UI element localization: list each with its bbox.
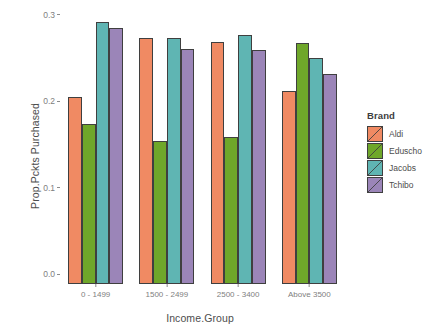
bar <box>238 35 252 284</box>
y-axis-tick-label: 0.3 <box>43 10 57 20</box>
y-axis-tick-label: 0.2 <box>43 96 57 106</box>
bar <box>282 91 296 284</box>
y-axis-tick-label: 0.1 <box>43 183 57 193</box>
bar <box>252 50 266 284</box>
x-axis-tick: 2500 - 3400 <box>217 284 260 299</box>
bar-chart: Prop.Pckts Purchased 0.00.10.20.30 - 149… <box>0 0 445 334</box>
x-axis-tick: 1500 - 2499 <box>146 284 189 299</box>
y-axis-tick-mark <box>57 101 60 102</box>
bar <box>309 58 323 285</box>
y-axis-tick-mark <box>57 274 60 275</box>
x-axis-tick: 0 - 1499 <box>81 284 110 299</box>
bar <box>96 22 110 284</box>
legend-key-swatch <box>367 177 383 193</box>
bar <box>211 42 225 284</box>
legend-key-swatch <box>367 126 383 142</box>
bar <box>181 49 195 284</box>
bar <box>139 38 153 284</box>
bar <box>167 38 181 284</box>
bar <box>82 124 96 284</box>
x-axis-tick-mark <box>95 284 96 287</box>
y-axis-tick-mark <box>57 14 60 15</box>
bar <box>224 137 238 284</box>
x-axis-tick-label: 0 - 1499 <box>81 290 110 299</box>
legend-key-swatch <box>367 143 383 159</box>
bar <box>296 43 310 284</box>
legend-key-swatch <box>367 160 383 176</box>
legend-item[interactable]: Jacobs <box>367 159 443 176</box>
x-axis-tick-mark <box>238 284 239 287</box>
y-axis-tick-label: 0.0 <box>43 269 57 279</box>
y-axis-tick: 0.2 <box>43 96 60 106</box>
x-axis-tick-label: 1500 - 2499 <box>146 290 189 299</box>
bar <box>323 74 337 284</box>
bar <box>68 97 82 284</box>
legend-item-label: Jacobs <box>383 163 416 173</box>
legend-item[interactable]: Eduscho <box>367 142 443 159</box>
legend: Brand AldiEduschoJacobsTchibo <box>367 110 443 193</box>
y-axis-title: Prop.Pckts Purchased <box>29 46 41 266</box>
legend-item[interactable]: Aldi <box>367 125 443 142</box>
x-axis-tick: Above 3500 <box>288 284 331 299</box>
x-axis-tick-mark <box>309 284 310 287</box>
legend-item-label: Aldi <box>383 129 403 139</box>
x-axis-tick-label: Above 3500 <box>288 290 331 299</box>
legend-item-label: Tchibo <box>383 180 414 190</box>
y-axis-tick: 0.0 <box>43 269 60 279</box>
y-axis-tick: 0.3 <box>43 10 60 20</box>
y-axis-tick: 0.1 <box>43 183 60 193</box>
legend-item-list: AldiEduschoJacobsTchibo <box>367 125 443 193</box>
plot-panel: 0.00.10.20.30 - 14991500 - 24992500 - 34… <box>60 16 345 284</box>
legend-item-label: Eduscho <box>383 146 422 156</box>
legend-title: Brand <box>367 110 443 121</box>
bar <box>109 28 123 284</box>
bar <box>153 141 167 284</box>
y-axis-tick-mark <box>57 187 60 188</box>
x-axis-tick-mark <box>166 284 167 287</box>
x-axis-tick-label: 2500 - 3400 <box>217 290 260 299</box>
legend-item[interactable]: Tchibo <box>367 176 443 193</box>
x-axis-title: Income.Group <box>55 312 345 324</box>
